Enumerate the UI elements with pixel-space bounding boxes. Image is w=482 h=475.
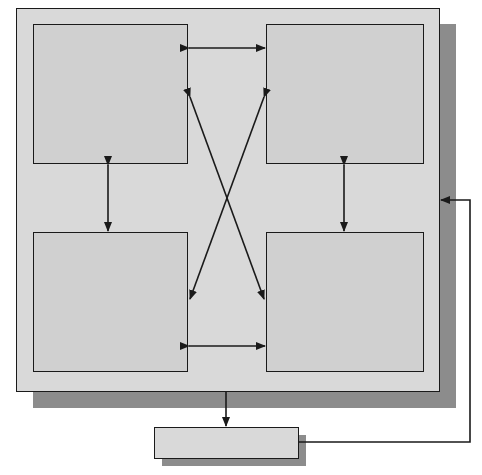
connection-arrows bbox=[0, 0, 482, 475]
arrow-feedback-output-to-container bbox=[299, 200, 470, 442]
